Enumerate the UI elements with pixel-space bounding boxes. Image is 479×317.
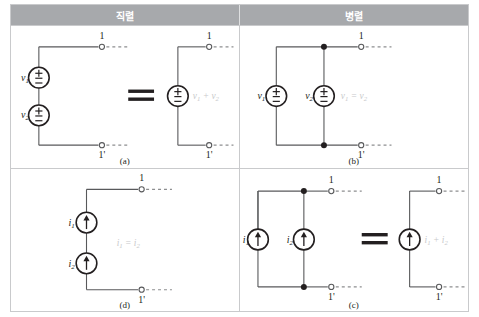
table-header-row: 직렬 병렬 xyxy=(11,5,468,26)
header-cell-parallel: 병렬 xyxy=(240,5,468,25)
annotation-constraint-b: v1 = v2 xyxy=(340,91,367,102)
equals-sign-c xyxy=(361,233,387,244)
terminal-node-top-right xyxy=(207,44,212,49)
terminal-node-bottom-d xyxy=(139,287,144,292)
label-terminal-top-c: 1 xyxy=(328,174,333,185)
junction-dot-bottom-c xyxy=(300,284,306,290)
panel-caption-d: (d) xyxy=(11,300,239,310)
label-b-v2: v2 xyxy=(305,90,313,103)
terminal-node-top-c xyxy=(328,189,333,194)
terminal-node-bottom-c xyxy=(328,284,333,289)
panel-a-circuit: v1 v2 1 1' 1 1' v1 + v2 xyxy=(11,26,239,168)
junction-dot-bottom-b xyxy=(320,142,326,148)
panel-caption-c: (c) xyxy=(240,300,469,310)
label-terminal-top-b: 1 xyxy=(358,30,363,41)
terminal-node-top-left xyxy=(99,44,104,49)
panel-c-parallel-current: i1 i2 1 1' 1 1' i1 + i2 (c) xyxy=(240,169,469,312)
label-c-i2: i2 xyxy=(286,234,293,247)
label-terminal-top-right: 1 xyxy=(207,30,212,41)
panel-c-circuit: i1 i2 1 1' 1 1' i1 + i2 xyxy=(240,169,469,312)
junction-dot-top-c xyxy=(300,188,306,194)
label-v1: v1 xyxy=(21,72,29,85)
label-terminal-top-left: 1 xyxy=(99,30,104,41)
terminal-node-bottom-right xyxy=(207,143,212,148)
junction-dot-top-b xyxy=(320,44,326,50)
panel-caption-b: (b) xyxy=(240,156,469,166)
label-terminal-top-d: 1 xyxy=(139,172,144,183)
label-i2: i2 xyxy=(68,258,75,271)
terminal-node-top-b xyxy=(358,44,363,49)
terminal-node-top-c-right xyxy=(436,189,441,194)
panel-a-series-voltage: v1 v2 1 1' 1 1' v1 + v2 (a) xyxy=(11,26,240,169)
header-label-parallel: 병렬 xyxy=(345,8,364,23)
panel-b-parallel-voltage: v1 v2 1 1' v1 = v2 (b) xyxy=(240,26,469,169)
terminal-node-bottom-b xyxy=(358,143,363,148)
panel-d-circuit: i1 i2 1 1' i1 = i2 xyxy=(11,169,239,312)
annotation-result-c: i1 + i2 xyxy=(424,235,448,246)
header-cell-series: 직렬 xyxy=(11,5,240,25)
equals-sign-a xyxy=(128,90,154,101)
panel-d-series-current: i1 i2 1 1' i1 = i2 (d) xyxy=(11,169,240,312)
terminal-node-bottom-c-right xyxy=(436,284,441,289)
terminal-node-top-d xyxy=(139,187,144,192)
label-v2: v2 xyxy=(21,109,29,122)
annotation-constraint-d: i1 = i2 xyxy=(117,238,141,249)
label-i1: i1 xyxy=(68,217,74,230)
label-terminal-top-c-right: 1 xyxy=(436,174,441,185)
header-label-series: 직렬 xyxy=(116,8,135,23)
annotation-result-a: v1 + v2 xyxy=(193,91,220,102)
label-b-v1: v1 xyxy=(257,90,265,103)
table-body-grid: v1 v2 1 1' 1 1' v1 + v2 (a) xyxy=(11,26,468,312)
figure-table: 직렬 병렬 xyxy=(10,4,469,312)
panel-b-circuit: v1 v2 1 1' v1 = v2 xyxy=(240,26,469,168)
terminal-node-bottom-left xyxy=(99,143,104,148)
panel-caption-a: (a) xyxy=(11,156,239,166)
